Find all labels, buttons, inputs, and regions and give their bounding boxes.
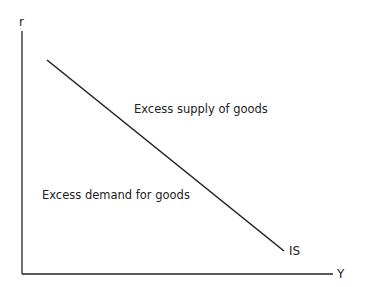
is-curve-label: IS [289,244,300,258]
is-curve-line [47,60,284,251]
excess-supply-label: Excess supply of goods [134,102,268,116]
excess-demand-label: Excess demand for goods [42,188,190,202]
diagram-svg: r Y IS Excess supply of goods Excess dem… [0,0,366,287]
x-axis-label: Y [336,267,345,281]
is-curve-diagram: r Y IS Excess supply of goods Excess dem… [0,0,366,287]
y-axis-label: r [19,15,24,29]
